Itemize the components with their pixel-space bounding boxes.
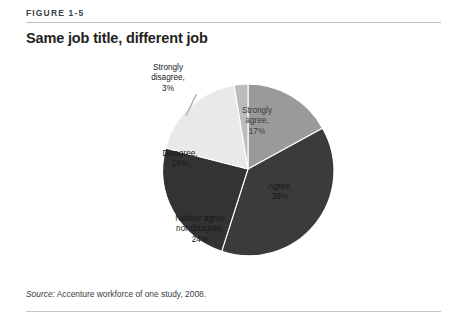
- slice-label-strongly-disagree-line2: disagree,: [122, 73, 214, 83]
- slice-label-strongly-disagree-line3: 3%: [122, 84, 214, 94]
- slice-label-agree: Agree, 38%: [241, 182, 319, 203]
- slice-label-agree-line1: Agree,: [241, 182, 319, 192]
- source-note: Source: Accenture workforce of one study…: [26, 289, 206, 299]
- slice-label-neither-agree-nor-disagree: Neither agree nor disagree, 24%: [152, 214, 248, 245]
- slice-label-agree-line2: 38%: [241, 192, 319, 202]
- figure-title: Same job title, different job: [26, 30, 208, 46]
- slice-label-strongly-disagree-line1: Strongly: [122, 63, 214, 73]
- figure-number-label: FIGURE 1-5: [26, 8, 84, 18]
- pie-chart: Strongly disagree, 3% Strongly agree, 17…: [0, 58, 467, 280]
- footer-divider: [26, 311, 441, 312]
- source-note-prefix: Source:: [26, 289, 55, 299]
- slice-label-strongly-agree: Strongly agree, 17%: [211, 106, 303, 137]
- slice-label-strongly-agree-line1: Strongly: [211, 106, 303, 116]
- header-divider: [26, 22, 441, 23]
- slice-label-strongly-agree-line2: agree,: [211, 116, 303, 126]
- slice-label-neither-line3: 24%: [152, 235, 248, 245]
- slice-label-disagree-line2: 18%: [140, 159, 220, 169]
- slice-label-strongly-agree-line3: 17%: [211, 127, 303, 137]
- slice-label-disagree-line1: Disagree,: [140, 149, 220, 159]
- slice-label-strongly-disagree: Strongly disagree, 3%: [122, 63, 214, 94]
- slice-label-neither-line2: nor disagree,: [152, 224, 248, 234]
- slice-label-neither-line1: Neither agree: [152, 214, 248, 224]
- slice-label-disagree: Disagree, 18%: [140, 149, 220, 170]
- source-note-text: Accenture workforce of one study, 2008.: [55, 289, 206, 299]
- figure-container: FIGURE 1-5 Same job title, different job: [0, 0, 467, 324]
- pie-chart-svg: [0, 58, 467, 280]
